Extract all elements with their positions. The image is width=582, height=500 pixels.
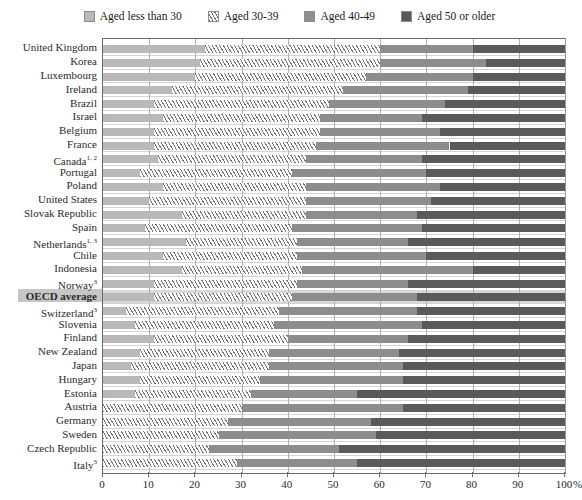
legend-item-3: Aged 50 or older — [401, 11, 495, 22]
bar-row — [103, 418, 565, 426]
category-label-text: Spain — [72, 221, 97, 233]
category-label-3: Ireland — [0, 84, 97, 95]
legend-swatch-icon — [304, 11, 315, 22]
legend-label: Aged 50 or older — [417, 11, 495, 22]
x-tick-label-50: 50 — [328, 479, 339, 490]
bar-segment-2 — [380, 59, 486, 67]
bar-row — [103, 183, 565, 191]
bar-segment-2 — [329, 100, 445, 108]
bar-segment-3 — [468, 86, 565, 94]
x-tick-label-80: 80 — [466, 479, 477, 490]
bar-segment-2 — [292, 224, 421, 232]
bar-segment-0 — [103, 238, 186, 246]
category-label-text: United States — [38, 193, 97, 205]
category-label-1: Korea — [0, 56, 97, 67]
category-label-12: Slovak Republic — [0, 208, 97, 219]
x-axis: 0102030405060708090100% — [102, 472, 565, 498]
bar-row — [103, 238, 565, 246]
legend-item-2: Aged 40-49 — [304, 11, 375, 22]
x-tick-label-10: 10 — [143, 479, 154, 490]
bar-segment-1 — [135, 390, 251, 398]
bar-segment-1 — [140, 169, 292, 177]
category-label-10: Poland — [0, 180, 97, 191]
bar-segment-3 — [417, 293, 565, 301]
bar-segment-3 — [422, 224, 565, 232]
category-label-text: Japan — [72, 359, 97, 371]
bar-segment-3 — [403, 362, 565, 370]
bar-segment-2 — [343, 86, 468, 94]
x-tick-label-70: 70 — [420, 479, 431, 490]
bar-segment-3 — [371, 418, 565, 426]
bar-row — [103, 335, 565, 343]
bar-segment-0 — [103, 155, 158, 163]
bar-segment-2 — [297, 238, 408, 246]
bar-segment-2 — [237, 459, 357, 467]
bar-segment-3 — [403, 376, 565, 384]
bar-segment-0 — [103, 293, 154, 301]
bar-segment-0 — [103, 45, 205, 53]
x-axis-unit: % — [573, 479, 582, 490]
category-label-text: France — [67, 138, 97, 150]
bar-segment-2 — [306, 155, 422, 163]
bar-segment-1 — [163, 183, 306, 191]
x-tick-20 — [194, 472, 195, 477]
bar-segment-3 — [422, 155, 565, 163]
bar-segment-0 — [103, 59, 200, 67]
bar-segment-2 — [242, 404, 404, 412]
bar-segment-2 — [297, 280, 408, 288]
bar-segment-0 — [103, 362, 131, 370]
bar-segment-3 — [403, 404, 565, 412]
category-label-5: Israel — [0, 111, 97, 122]
bar-segment-0 — [103, 100, 154, 108]
bar-segment-3 — [422, 114, 565, 122]
category-footnote: 1, 2 — [87, 154, 98, 162]
category-label-6: Belgium — [0, 125, 97, 136]
bar-row — [103, 266, 565, 274]
plot-wrapper: United KingdomKoreaLuxembourgIrelandBraz… — [0, 38, 579, 475]
bar-segment-0 — [103, 307, 126, 315]
bar-segment-0 — [103, 169, 140, 177]
bar-row — [103, 73, 565, 81]
x-tick-label-90: 90 — [512, 479, 523, 490]
bar-segment-2 — [306, 211, 417, 219]
bar-segment-0 — [103, 211, 182, 219]
x-tick-90 — [518, 472, 519, 477]
bar-row — [103, 431, 565, 439]
bar-segment-1 — [154, 100, 330, 108]
bar-segment-1 — [103, 404, 242, 412]
x-tick-50 — [333, 472, 334, 477]
bar-segment-1 — [163, 252, 297, 260]
category-label-30: Italy3 — [0, 457, 97, 471]
bar-row — [103, 404, 565, 412]
legend-swatch-icon — [84, 11, 95, 22]
chart-legend: Aged less than 30Aged 30-39Aged 40-49Age… — [0, 11, 579, 22]
bar-segment-2 — [306, 197, 431, 205]
bar-segment-3 — [417, 211, 565, 219]
bar-segment-1 — [195, 73, 366, 81]
category-label-8: Canada1, 2 — [0, 153, 97, 167]
bar-segment-2 — [269, 362, 403, 370]
bar-row — [103, 59, 565, 67]
category-label-text: Slovenia — [59, 318, 98, 330]
x-tick-label-60: 60 — [374, 479, 385, 490]
legend-label: Aged 40-49 — [320, 11, 375, 22]
x-tick-100 — [564, 472, 565, 477]
bar-segment-3 — [357, 459, 565, 467]
bar-segment-3 — [450, 142, 566, 150]
bar-segment-3 — [426, 169, 565, 177]
category-labels-column: United KingdomKoreaLuxembourgIrelandBraz… — [0, 38, 102, 472]
x-tick-40 — [287, 472, 288, 477]
bar-row — [103, 155, 565, 163]
bar-segment-2 — [288, 335, 408, 343]
bar-segment-2 — [302, 266, 473, 274]
bar-segment-0 — [103, 266, 182, 274]
category-label-15: Chile — [0, 250, 97, 261]
bar-segment-2 — [219, 431, 376, 439]
bar-segment-0 — [103, 86, 172, 94]
category-label-26: Austria — [0, 401, 97, 412]
bar-segment-1 — [154, 128, 320, 136]
bar-segment-3 — [408, 335, 565, 343]
bar-segment-2 — [251, 390, 357, 398]
bar-row — [103, 45, 565, 53]
